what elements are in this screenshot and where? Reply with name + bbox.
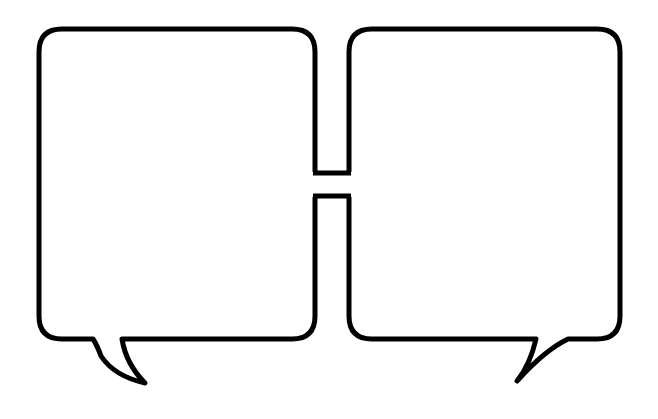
speech-bubble-template [0, 0, 658, 419]
right-speech-bubble [349, 29, 620, 381]
joined-speech-bubbles-graphic [0, 0, 658, 419]
left-speech-bubble [39, 29, 315, 383]
bubble-bridge-fill [312, 174, 352, 195]
